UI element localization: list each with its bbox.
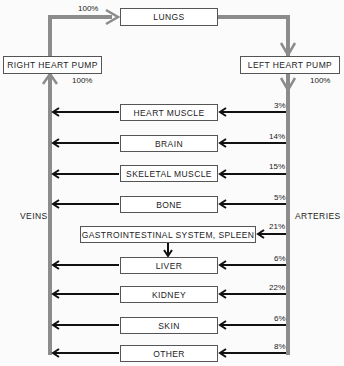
percent-gastrointestinal-spleen: 21% — [269, 222, 285, 231]
organ-box-gastrointestinal-spleen: GASTROINTESTINAL SYSTEM, SPLEEN — [80, 226, 256, 243]
organ-box-skeletal-muscle: SKELETAL MUSCLE — [120, 165, 218, 182]
organ-box-liver: LIVER — [120, 257, 218, 274]
percent-kidney: 22% — [269, 283, 285, 292]
percent-skeletal-muscle: 15% — [269, 162, 285, 171]
organ-box-other: OTHER — [120, 345, 218, 362]
circulation-flow-lines — [0, 0, 344, 366]
organ-box-brain: BRAIN — [120, 135, 218, 152]
organ-box-bone: BONE — [120, 196, 218, 213]
organ-box-skin: SKIN — [120, 317, 218, 334]
left-heart-pump-box: LEFT HEART PUMP — [240, 56, 340, 74]
percent-brain: 14% — [269, 132, 285, 141]
lungs-inflow-percent: 100% — [78, 4, 98, 13]
right-pump-percent: 100% — [72, 76, 92, 85]
left-pump-percent: 100% — [310, 76, 330, 85]
organ-box-heart-muscle: HEART MUSCLE — [120, 104, 218, 121]
veins-label: VEINS — [20, 211, 48, 221]
percent-skin: 6% — [274, 314, 286, 323]
percent-liver: 6% — [274, 254, 286, 263]
percent-other: 8% — [274, 342, 286, 351]
organ-box-kidney: KIDNEY — [120, 286, 218, 303]
arteries-label: ARTERIES — [295, 211, 341, 221]
right-heart-pump-box: RIGHT HEART PUMP — [3, 56, 102, 74]
percent-heart-muscle: 3% — [274, 101, 286, 110]
percent-bone: 5% — [274, 193, 286, 202]
lungs-box: LUNGS — [120, 8, 218, 26]
